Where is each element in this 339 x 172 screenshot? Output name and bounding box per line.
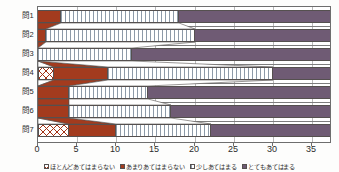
y-tick-label-6: 問7: [1, 123, 34, 134]
bar-segment-4: [179, 10, 331, 23]
bar-segment-3: [61, 10, 179, 23]
row-separator: [38, 83, 330, 84]
bar-segment-3: [46, 29, 195, 42]
bar-row: [38, 105, 331, 118]
legend-swatch-icon-1: [120, 164, 125, 169]
legend-item-2[interactable]: 少しあてはまる: [190, 162, 237, 171]
bar-row: [38, 48, 331, 61]
bar-segment-4: [132, 48, 331, 61]
bar-segment-3: [116, 124, 211, 137]
y-tick-label-4: 問5: [1, 85, 34, 96]
legend-label-0: ほとんどあてはまらない: [50, 162, 115, 171]
x-tick-label-6: 30: [267, 144, 277, 154]
x-tick-label-0: 0: [34, 144, 39, 154]
legend-label-2: 少しあてはまる: [196, 162, 237, 171]
bar-segment-4: [211, 124, 331, 137]
bar-segment-4: [273, 67, 331, 80]
row-separator: [38, 121, 330, 122]
bar-row: [38, 124, 331, 137]
bar-segment-1: [38, 124, 69, 137]
legend-label-3: とてもあてはまる: [248, 162, 295, 171]
y-tick-label-3: 問4: [1, 66, 34, 77]
x-tick-label-5: 25: [228, 144, 238, 154]
bar-segment-3: [108, 67, 273, 80]
bar-segment-2: [54, 67, 108, 80]
x-tick-label-3: 15: [149, 144, 159, 154]
bar-row: [38, 86, 331, 99]
row-separator: [38, 45, 330, 46]
chart-legend: ほとんどあてはまらない あまりあてはまらない 少しあてはまる とてもあてはまる: [0, 161, 339, 172]
bar-segment-2: [38, 86, 69, 99]
legend-swatch-icon-2: [190, 164, 195, 169]
x-tick-label-4: 20: [189, 144, 199, 154]
bar-row: [38, 29, 331, 42]
bar-segment-3: [38, 48, 132, 61]
legend-swatch-icon-3: [242, 164, 247, 169]
bar-segment-4: [195, 29, 331, 42]
legend-item-3[interactable]: とてもあてはまる: [242, 162, 295, 171]
y-axis: 問1 問2 問3 問4 問5 問6 問7: [0, 6, 34, 143]
legend-swatch-icon-0: [44, 164, 49, 169]
row-separator: [38, 102, 330, 103]
bar-segment-2: [69, 124, 116, 137]
y-tick-label-2: 問3: [1, 47, 34, 58]
y-tick-label-1: 問2: [1, 28, 34, 39]
legend-item-0[interactable]: ほとんどあてはまらない: [44, 162, 115, 171]
stacked-bar-chart: 問1 問2 問3 問4 問5 問6 問7: [0, 0, 339, 172]
plot-area: [37, 6, 331, 143]
row-separator: [38, 64, 330, 65]
bar-segment-1: [38, 67, 54, 80]
bar-segment-2: [38, 29, 46, 42]
bar-segment-4: [148, 86, 331, 99]
x-tick-label-7: 35: [306, 144, 316, 154]
bar-segment-3: [69, 86, 148, 99]
legend-label-1: あまりあてはまらない: [126, 162, 185, 171]
row-separator: [38, 26, 330, 27]
bar-segment-2: [38, 10, 61, 23]
y-tick-label-5: 問6: [1, 104, 34, 115]
legend-item-1[interactable]: あまりあてはまらない: [120, 162, 185, 171]
bar-row: [38, 10, 331, 23]
bar-segment-4: [171, 105, 331, 118]
x-tick-label-2: 10: [110, 144, 120, 154]
bar-segment-2: [38, 105, 69, 118]
x-tick-label-1: 5: [73, 144, 78, 154]
bar-segment-3: [69, 105, 171, 118]
x-axis: 0 5 10 15 20 25 30 35: [0, 144, 339, 156]
bar-row: [38, 67, 331, 80]
y-tick-label-0: 問1: [1, 9, 34, 20]
